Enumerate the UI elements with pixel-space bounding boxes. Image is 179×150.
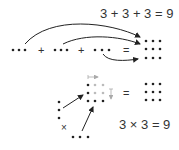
plus-sign-1: + <box>38 44 44 56</box>
group-3-dots <box>94 49 111 52</box>
top-result-grid <box>145 40 162 60</box>
times-sign: × <box>61 122 67 133</box>
bottom-grid <box>87 84 105 103</box>
horizontal-factor-dots <box>72 136 90 139</box>
equals-sign-bottom: = <box>123 87 129 99</box>
ghost-arrows <box>88 75 113 99</box>
plus-sign-2: + <box>78 44 84 56</box>
equals-sign-top: = <box>123 44 129 56</box>
bottom-result-grid <box>145 83 162 102</box>
bottom-equation: 3 × 3 = 9 <box>119 117 170 132</box>
group-2-dots <box>54 49 69 52</box>
group-1-dots <box>12 49 27 52</box>
vertical-factor-dots <box>58 101 61 120</box>
